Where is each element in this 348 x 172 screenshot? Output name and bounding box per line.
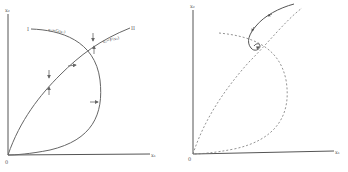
curve-II-label: II [131,25,135,31]
trajectory-arrow-icon [256,47,259,48]
y-axis-label: x₂ [5,7,10,13]
y-axis-label: x₂ [190,3,195,9]
curve-I-equation: x₁=G(x₂) [48,27,66,34]
x-axis [8,154,150,155]
phase-plane-trajectory: x₂ x₁ 0 [174,0,348,172]
trajectory-curve [249,4,294,50]
curve-I-label: I [27,26,29,32]
x-axis-label: x₁ [151,152,156,158]
origin-label: 0 [5,159,8,165]
isocline-II-dashed [193,8,302,154]
trajectory-diagram: x₂ x₁ 0 [174,0,348,172]
x-axis [193,151,334,154]
curve-II [8,28,130,155]
curve-I [8,29,101,155]
isocline-diagram: x₂ x₁ 0 I x₁=G(x₂) II x₂=F(x₁) [0,0,174,172]
isocline-I-dashed [193,33,287,154]
origin-label: 0 [188,156,191,162]
x-axis-label: x₁ [335,149,340,155]
arrow-right-icon [68,65,76,66]
phase-plane-isoclines: x₂ x₁ 0 I x₁=G(x₂) II x₂=F(x₁) [0,0,174,172]
curve-II-equation: x₂=F(x₁) [102,35,120,44]
